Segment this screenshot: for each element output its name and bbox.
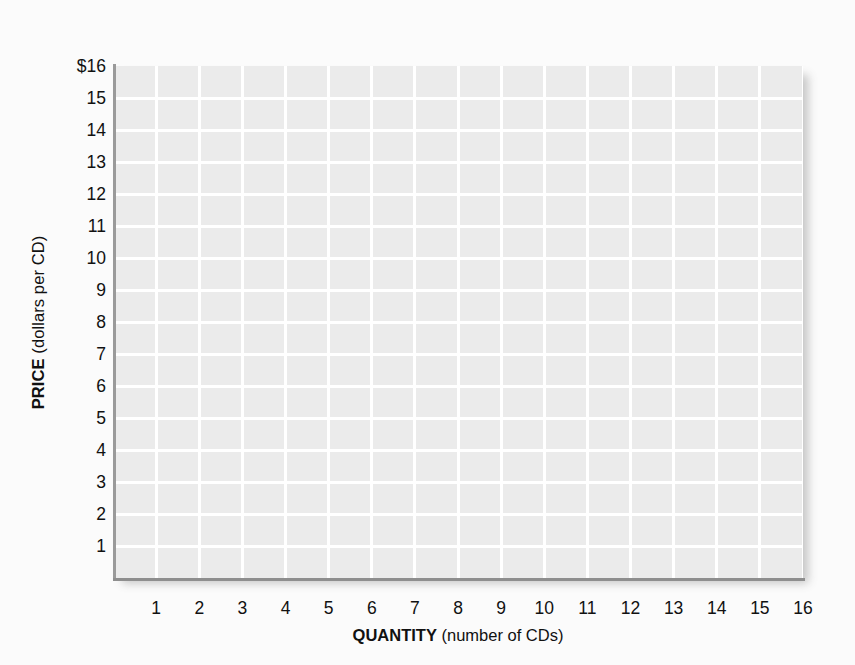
gridline-horizontal xyxy=(113,481,803,484)
gridline-horizontal xyxy=(113,289,803,292)
gridline-horizontal xyxy=(113,545,803,548)
gridline-horizontal xyxy=(113,385,803,388)
y-axis-title-rest: (dollars per CD) xyxy=(30,235,48,358)
plot-area xyxy=(113,66,803,578)
y-axis-title: PRICE (dollars per CD) xyxy=(24,66,54,578)
x-tick-label: 6 xyxy=(349,596,395,620)
y-tick-label: 4 xyxy=(56,439,106,461)
y-tick-label: 6 xyxy=(56,375,106,397)
grid-layer xyxy=(113,66,803,578)
x-tick-label: 14 xyxy=(694,596,740,620)
gridline-horizontal xyxy=(113,257,803,260)
y-tick-label: 3 xyxy=(56,471,106,493)
y-axis-spine xyxy=(113,64,116,580)
gridline-horizontal xyxy=(113,417,803,420)
gridline-horizontal xyxy=(113,353,803,356)
y-tick-label: 9 xyxy=(56,279,106,301)
y-tick-label: 2 xyxy=(56,503,106,525)
x-axis-title: QUANTITY (number of CDs) xyxy=(113,626,803,645)
x-tick-label: 8 xyxy=(435,596,481,620)
y-tick-label: 11 xyxy=(56,215,106,237)
x-tick-label: 9 xyxy=(478,596,524,620)
gridline-horizontal xyxy=(113,225,803,228)
gridline-horizontal xyxy=(113,513,803,516)
x-tick-label: 4 xyxy=(263,596,309,620)
x-axis-title-bold: QUANTITY xyxy=(353,626,437,644)
y-tick-label: 5 xyxy=(56,407,106,429)
x-tick-label: 12 xyxy=(608,596,654,620)
y-axis-title-bold: PRICE xyxy=(30,358,48,409)
y-tick-label: 14 xyxy=(56,119,106,141)
x-tick-label: 13 xyxy=(651,596,697,620)
x-tick-label: 7 xyxy=(392,596,438,620)
y-tick-label: 13 xyxy=(56,151,106,173)
x-tick-label: 5 xyxy=(306,596,352,620)
y-tick-label: 1 xyxy=(56,535,106,557)
x-axis-spine xyxy=(113,578,805,581)
gridline-horizontal xyxy=(113,129,803,132)
x-tick-label: 15 xyxy=(737,596,783,620)
y-tick-label: 15 xyxy=(56,87,106,109)
y-tick-label: 8 xyxy=(56,311,106,333)
x-tick-label: 1 xyxy=(133,596,179,620)
gridline-horizontal xyxy=(113,161,803,164)
x-tick-label: 3 xyxy=(219,596,265,620)
y-tick-label: 12 xyxy=(56,183,106,205)
y-tick-label: 7 xyxy=(56,343,106,365)
y-tick-label: 10 xyxy=(56,247,106,269)
chart-figure: PRICE (dollars per CD) 12345678910111213… xyxy=(0,0,855,665)
gridline-horizontal xyxy=(113,321,803,324)
x-tick-label: 11 xyxy=(564,596,610,620)
gridline-horizontal xyxy=(113,449,803,452)
y-tick-label: $16 xyxy=(56,55,106,77)
x-axis-title-rest: (number of CDs) xyxy=(437,626,564,644)
x-tick-label: 2 xyxy=(176,596,222,620)
y-axis-tick-labels: 123456789101112131415$16 xyxy=(56,66,106,578)
x-tick-label: 16 xyxy=(780,596,826,620)
x-axis-tick-labels: 12345678910111213141516 xyxy=(113,596,803,620)
gridline-horizontal xyxy=(113,97,803,100)
gridline-horizontal xyxy=(113,193,803,196)
x-tick-label: 10 xyxy=(521,596,567,620)
